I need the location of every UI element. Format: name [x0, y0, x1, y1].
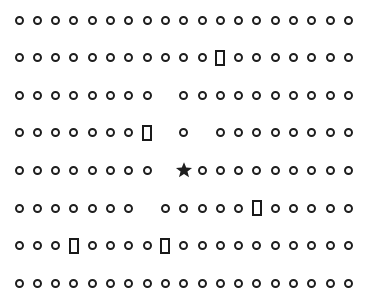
- circle-symbol: [266, 86, 284, 104]
- circle-icon: [15, 204, 24, 213]
- circle-icon: [15, 241, 24, 250]
- circle-symbol: [230, 274, 248, 292]
- empty-cell: [156, 86, 174, 104]
- circle-symbol: [47, 49, 65, 67]
- circle-symbol: [303, 274, 321, 292]
- star-icon: [175, 161, 193, 179]
- circle-symbol: [120, 274, 138, 292]
- empty-cell: [156, 161, 174, 179]
- circle-symbol: [47, 11, 65, 29]
- circle-icon: [69, 91, 78, 100]
- circle-symbol: [156, 11, 174, 29]
- circle-icon: [15, 53, 24, 62]
- circle-symbol: [339, 161, 357, 179]
- circle-symbol: [321, 274, 339, 292]
- circle-icon: [216, 241, 225, 250]
- circle-icon: [69, 128, 78, 137]
- circle-icon: [106, 128, 115, 137]
- circle-icon: [106, 16, 115, 25]
- circle-icon: [198, 204, 207, 213]
- circle-symbol: [339, 274, 357, 292]
- circle-icon: [143, 241, 152, 250]
- circle-symbol: [102, 274, 120, 292]
- circle-icon: [33, 16, 42, 25]
- circle-symbol: [248, 86, 266, 104]
- circle-icon: [33, 128, 42, 137]
- circle-symbol: [285, 49, 303, 67]
- circle-symbol: [10, 49, 28, 67]
- circle-symbol: [211, 11, 229, 29]
- circle-icon: [106, 241, 115, 250]
- circle-icon: [234, 16, 243, 25]
- circle-symbol: [285, 124, 303, 142]
- circle-icon: [326, 53, 335, 62]
- circle-symbol: [303, 124, 321, 142]
- circle-symbol: [138, 237, 156, 255]
- circle-symbol: [102, 11, 120, 29]
- circle-symbol: [303, 49, 321, 67]
- circle-symbol: [248, 124, 266, 142]
- circle-symbol: [28, 161, 46, 179]
- circle-icon: [51, 16, 60, 25]
- circle-symbol: [138, 274, 156, 292]
- circle-symbol: [266, 124, 284, 142]
- circle-icon: [161, 204, 170, 213]
- circle-icon: [307, 166, 316, 175]
- circle-symbol: [28, 11, 46, 29]
- circle-symbol: [193, 274, 211, 292]
- circle-icon: [106, 91, 115, 100]
- circle-icon: [271, 53, 280, 62]
- circle-symbol: [321, 199, 339, 217]
- circle-icon: [198, 91, 207, 100]
- circle-icon: [15, 166, 24, 175]
- circle-symbol: [28, 49, 46, 67]
- circle-icon: [143, 279, 152, 288]
- circle-symbol: [321, 237, 339, 255]
- circle-icon: [344, 204, 353, 213]
- circle-symbol: [193, 199, 211, 217]
- circle-icon: [326, 16, 335, 25]
- circle-symbol: [138, 161, 156, 179]
- circle-icon: [344, 166, 353, 175]
- circle-symbol: [248, 49, 266, 67]
- circle-icon: [344, 241, 353, 250]
- circle-symbol: [83, 199, 101, 217]
- circle-icon: [88, 166, 97, 175]
- circle-icon: [344, 128, 353, 137]
- symbol-grid: [0, 0, 369, 301]
- circle-symbol: [211, 161, 229, 179]
- circle-icon: [289, 279, 298, 288]
- circle-symbol: [83, 237, 101, 255]
- circle-icon: [326, 128, 335, 137]
- circle-symbol: [321, 124, 339, 142]
- circle-icon: [51, 128, 60, 137]
- circle-icon: [124, 279, 133, 288]
- circle-symbol: [339, 124, 357, 142]
- circle-icon: [271, 91, 280, 100]
- circle-icon: [252, 128, 261, 137]
- circle-symbol: [138, 11, 156, 29]
- circle-symbol: [339, 86, 357, 104]
- circle-icon: [252, 279, 261, 288]
- circle-symbol: [102, 124, 120, 142]
- circle-symbol: [28, 199, 46, 217]
- circle-icon: [307, 128, 316, 137]
- circle-symbol: [47, 199, 65, 217]
- circle-symbol: [266, 237, 284, 255]
- circle-symbol: [285, 199, 303, 217]
- circle-icon: [15, 91, 24, 100]
- circle-symbol: [193, 86, 211, 104]
- circle-icon: [289, 204, 298, 213]
- circle-icon: [69, 204, 78, 213]
- circle-icon: [198, 53, 207, 62]
- circle-symbol: [285, 274, 303, 292]
- star-symbol: [175, 161, 193, 179]
- circle-symbol: [120, 199, 138, 217]
- circle-icon: [124, 204, 133, 213]
- circle-icon: [143, 166, 152, 175]
- circle-symbol: [193, 237, 211, 255]
- circle-icon: [234, 166, 243, 175]
- circle-symbol: [339, 237, 357, 255]
- circle-icon: [88, 91, 97, 100]
- rectangle-symbol: [248, 199, 266, 217]
